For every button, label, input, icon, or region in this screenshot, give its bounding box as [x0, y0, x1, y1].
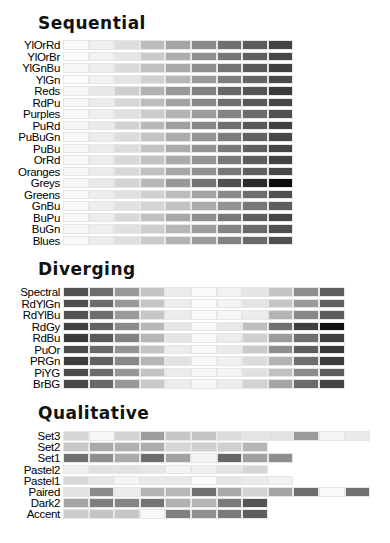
- palette-label: PuBuGn: [18, 131, 60, 143]
- palette-swatches: [63, 476, 293, 486]
- palette-swatches: [63, 345, 345, 355]
- color-swatch: [114, 213, 140, 223]
- color-swatch: [63, 63, 89, 73]
- color-swatch: [114, 498, 140, 508]
- color-swatch: [89, 201, 115, 211]
- color-swatch: [140, 167, 166, 177]
- color-swatch: [165, 144, 191, 154]
- color-swatch: [140, 144, 166, 154]
- color-swatch: [63, 144, 89, 154]
- color-swatch: [140, 431, 166, 441]
- palette-label: Dark2: [31, 497, 60, 509]
- palette-swatches: [63, 442, 268, 452]
- color-swatch: [165, 224, 191, 234]
- color-swatch: [242, 287, 268, 297]
- color-swatch: [242, 155, 268, 165]
- color-swatch: [191, 75, 217, 85]
- palette-swatches: [63, 287, 345, 297]
- palette-label: RdPu: [32, 97, 60, 109]
- color-swatch: [63, 509, 89, 519]
- color-swatch: [293, 345, 319, 355]
- color-swatch: [191, 310, 217, 320]
- palette-label: RdGy: [32, 321, 60, 333]
- color-swatch: [268, 476, 294, 486]
- color-swatch: [140, 178, 166, 188]
- color-swatch: [114, 144, 140, 154]
- color-swatch: [165, 476, 191, 486]
- color-swatch: [89, 40, 115, 50]
- color-swatch: [63, 52, 89, 62]
- color-swatch: [140, 442, 166, 452]
- color-swatch: [114, 155, 140, 165]
- color-swatch: [217, 132, 243, 142]
- color-swatch: [217, 190, 243, 200]
- color-swatch: [63, 431, 89, 441]
- color-swatch: [191, 52, 217, 62]
- color-swatch: [89, 75, 115, 85]
- color-swatch: [191, 287, 217, 297]
- section-title-diverging: Diverging: [38, 259, 136, 279]
- color-swatch: [242, 213, 268, 223]
- color-swatch: [165, 98, 191, 108]
- palette-label: Purples: [23, 108, 60, 120]
- color-swatch: [89, 498, 115, 508]
- color-swatch: [242, 40, 268, 50]
- palette-label: PRGn: [30, 355, 60, 367]
- color-swatch: [293, 322, 319, 332]
- color-swatch: [140, 155, 166, 165]
- color-swatch: [191, 299, 217, 309]
- color-swatch: [319, 345, 345, 355]
- color-swatch: [63, 379, 89, 389]
- color-swatch: [217, 487, 243, 497]
- color-swatch: [191, 178, 217, 188]
- color-swatch: [217, 40, 243, 50]
- palette-swatches: [63, 109, 293, 119]
- color-swatch: [114, 431, 140, 441]
- color-swatch: [140, 121, 166, 131]
- color-swatch: [268, 201, 294, 211]
- color-swatch: [63, 98, 89, 108]
- color-swatch: [114, 379, 140, 389]
- color-swatch: [242, 509, 268, 519]
- color-swatch: [268, 121, 294, 131]
- palette-label: BuPu: [33, 212, 60, 224]
- color-swatch: [114, 52, 140, 62]
- palette-swatches: [63, 299, 345, 309]
- color-swatch: [140, 498, 166, 508]
- color-swatch: [268, 322, 294, 332]
- color-swatch: [217, 379, 243, 389]
- color-swatch: [63, 178, 89, 188]
- color-swatch: [217, 63, 243, 73]
- color-swatch: [217, 121, 243, 131]
- palette-label: PuOr: [34, 344, 60, 356]
- color-swatch: [217, 431, 243, 441]
- color-swatch: [191, 509, 217, 519]
- color-swatch: [165, 40, 191, 50]
- color-swatch: [268, 368, 294, 378]
- color-swatch: [293, 368, 319, 378]
- color-swatch: [89, 287, 115, 297]
- color-swatch: [217, 322, 243, 332]
- color-swatch: [268, 453, 294, 463]
- color-swatch: [165, 190, 191, 200]
- color-swatch: [89, 322, 115, 332]
- color-swatch: [89, 86, 115, 96]
- color-swatch: [63, 465, 89, 475]
- color-swatch: [140, 190, 166, 200]
- color-swatch: [140, 310, 166, 320]
- palette-row: BrBG: [0, 379, 390, 391]
- color-swatch: [191, 379, 217, 389]
- color-swatch: [140, 453, 166, 463]
- color-swatch: [114, 109, 140, 119]
- color-swatch: [114, 40, 140, 50]
- color-swatch: [140, 356, 166, 366]
- color-swatch: [63, 190, 89, 200]
- color-swatch: [89, 368, 115, 378]
- palette-swatches: [63, 167, 293, 177]
- color-swatch: [191, 40, 217, 50]
- color-swatch: [217, 453, 243, 463]
- color-swatch: [114, 224, 140, 234]
- color-swatch: [268, 379, 294, 389]
- color-swatch: [114, 465, 140, 475]
- palette-label: YlOrBr: [27, 51, 60, 63]
